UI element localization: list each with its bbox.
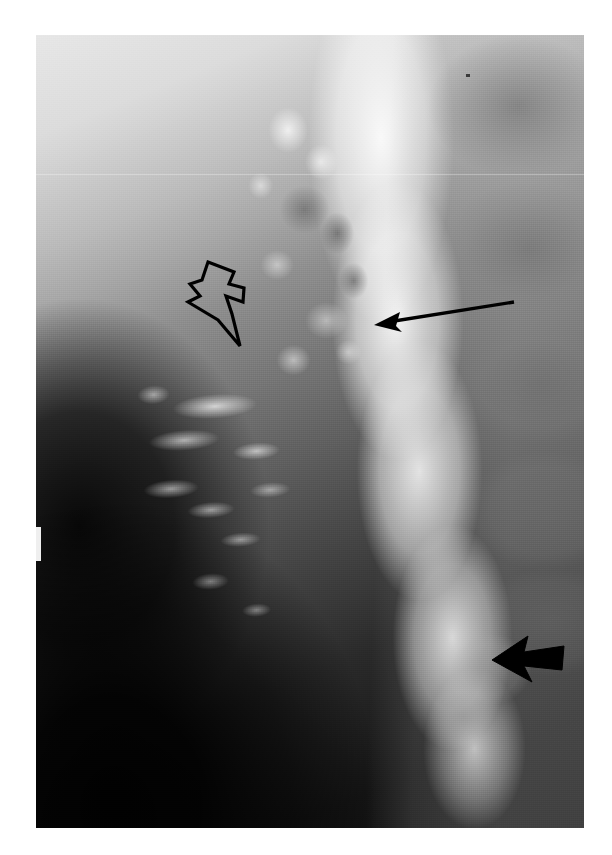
barium-streaks [36, 35, 584, 828]
film-edge-notch [36, 527, 41, 561]
solid-arrow-annotation [488, 630, 568, 688]
mucosal-detail [36, 35, 584, 828]
vertebral-shadow [36, 35, 584, 828]
radiograph-image[interactable] [36, 35, 584, 828]
barium-contrast-column [36, 35, 584, 828]
open-arrow-annotation [182, 258, 254, 356]
film-grain [36, 35, 584, 828]
film-tone-base [36, 35, 584, 828]
scan-seam-line [36, 174, 584, 175]
figure-root [0, 0, 612, 855]
solid-arrow-icon [492, 636, 564, 682]
thin-arrow-icon [374, 302, 514, 332]
open-arrow-icon [188, 262, 244, 346]
radiopaque-speck [466, 74, 470, 77]
thin-arrow-annotation [366, 292, 518, 334]
outpouching-shadow [36, 35, 584, 828]
